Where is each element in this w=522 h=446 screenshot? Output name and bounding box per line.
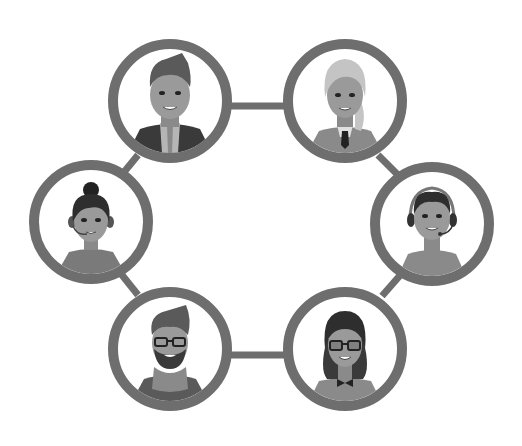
avatar-woman-glasses-bowtie: [288, 292, 402, 406]
network-diagram: Team network: [0, 0, 522, 446]
avatar-man-suit: [113, 44, 227, 158]
network-svg: [0, 0, 522, 446]
avatar-woman-bun-headset: [34, 165, 148, 279]
avatar-woman-blonde-tie: [288, 44, 402, 158]
avatar-man-beard-glasses: [113, 292, 227, 406]
avatar-man-headset: [375, 167, 489, 281]
